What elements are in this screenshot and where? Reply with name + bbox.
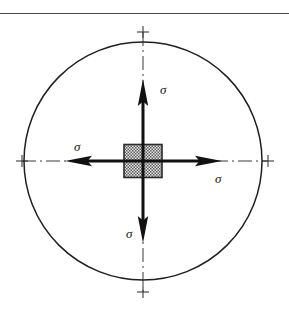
stress-arrow-down-shaft [142,160,145,226]
sigma-label-top: σ [160,83,166,96]
sigma-label-right: σ [215,172,221,185]
sigma-label-left: σ [74,140,80,153]
stress-diagram-canvas [0,0,289,316]
stress-diagram-figure: σ σ σ σ [0,0,289,316]
stress-arrow-left-shaft [82,160,144,163]
stress-arrow-up-shaft [142,96,145,162]
stress-arrow-right-shaft [143,160,205,163]
sigma-label-bottom: σ [126,227,132,240]
